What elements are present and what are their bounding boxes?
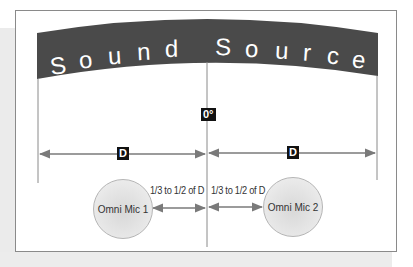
banner-letter: d (165, 35, 179, 62)
banner-letter: S (215, 33, 231, 60)
banner-letter: o (245, 35, 259, 62)
omni-mic-2-label: Omni Mic 2 (268, 202, 319, 213)
banner-letter: u (107, 42, 122, 70)
banner-letter: o (77, 45, 93, 73)
omni-mic-2: Omni Mic 2 (263, 177, 323, 237)
left-distance-label: D (117, 147, 129, 160)
left-gap-label: 1/3 to 1/2 of D (150, 184, 204, 196)
diagram-canvas: S o u n d S o u r c e (0, 0, 413, 267)
right-distance-label: D (287, 146, 299, 159)
banner-letter: n (136, 38, 151, 66)
banner-letter: u (274, 37, 289, 65)
right-gap-label: 1/3 to 1/2 of D (211, 184, 265, 196)
zero-degree-label: 0° (201, 108, 216, 121)
omni-mic-1-label: Omni Mic 1 (98, 204, 149, 215)
omni-mic-1: Omni Mic 1 (93, 179, 153, 239)
